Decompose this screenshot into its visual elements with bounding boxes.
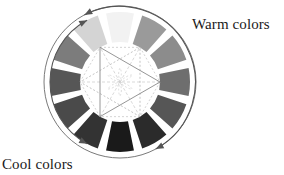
warm-colors-label: Warm colors: [192, 17, 270, 32]
cool-colors-label: Cool colors: [2, 157, 73, 172]
